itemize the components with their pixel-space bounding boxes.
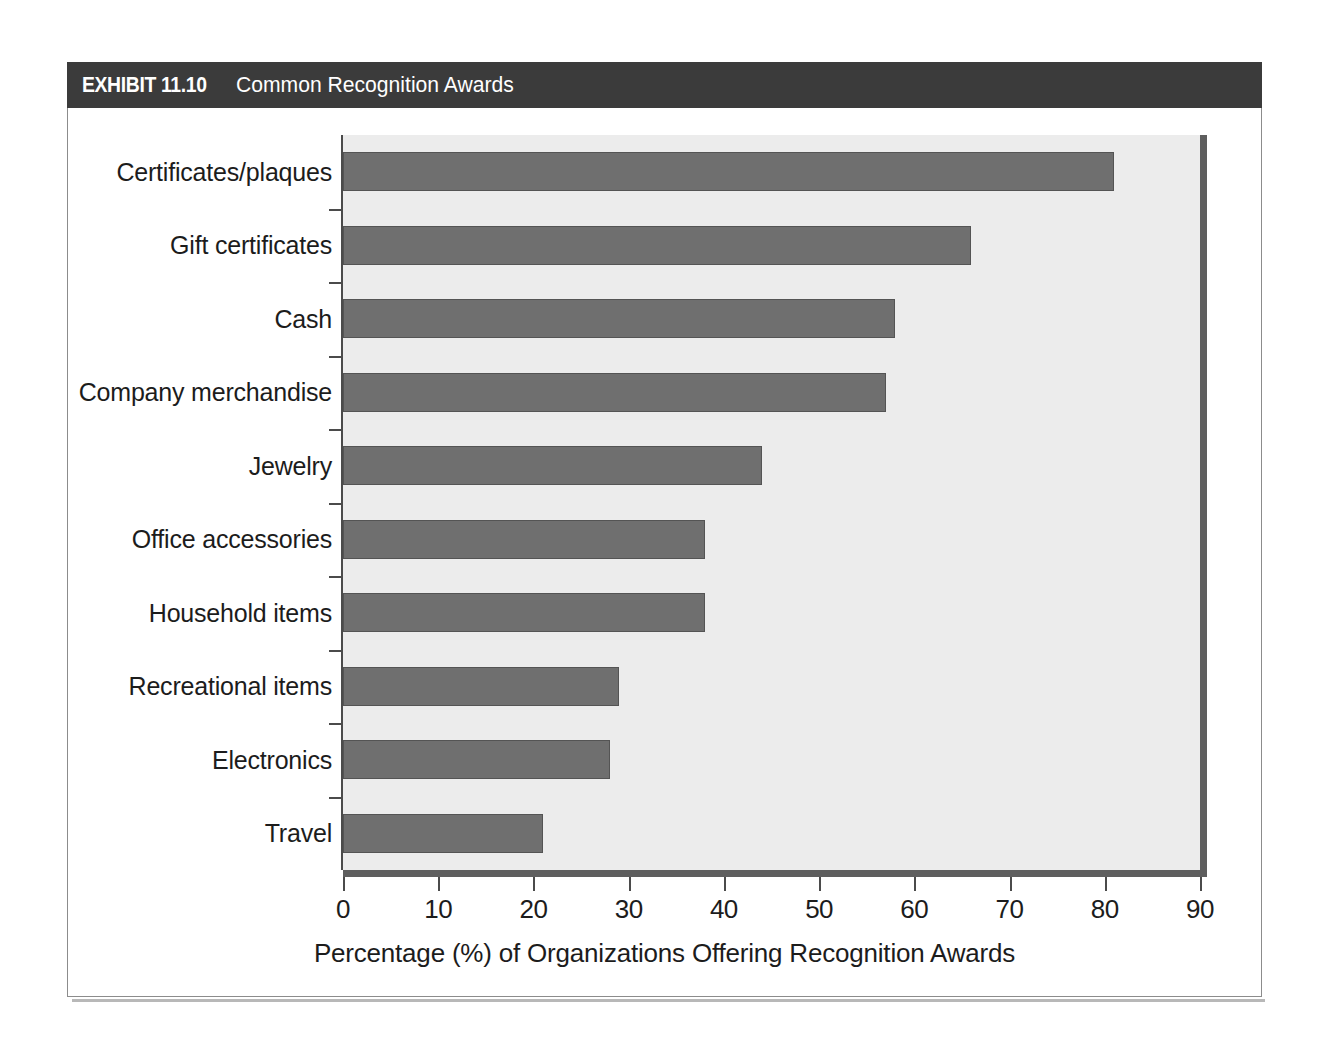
exhibit-title: Common Recognition Awards bbox=[236, 72, 514, 98]
x-axis-tick-label: 50 bbox=[805, 894, 833, 925]
x-axis-tick-label: 40 bbox=[710, 894, 738, 925]
bar-chart: 0102030405060708090 Certificates/plaques… bbox=[67, 108, 1262, 997]
plot-right-border bbox=[1200, 135, 1207, 875]
x-axis-tick bbox=[438, 877, 440, 891]
y-axis-tick bbox=[329, 282, 343, 284]
exhibit-number: EXHIBIT 11.10 bbox=[82, 72, 207, 98]
x-axis-tick-label: 20 bbox=[519, 894, 547, 925]
x-axis-tick bbox=[1200, 877, 1202, 891]
x-axis-tick bbox=[1105, 877, 1107, 891]
category-label: Office accessories bbox=[132, 525, 332, 554]
bar bbox=[343, 593, 705, 632]
category-label: Electronics bbox=[212, 745, 332, 774]
category-label: Gift certificates bbox=[170, 231, 332, 260]
y-axis-tick bbox=[329, 723, 343, 725]
category-label: Company merchandise bbox=[79, 378, 332, 407]
x-axis-tick-label: 90 bbox=[1186, 894, 1214, 925]
bar bbox=[343, 446, 762, 485]
x-axis-tick bbox=[343, 877, 345, 891]
bar bbox=[343, 814, 543, 853]
x-axis-tick bbox=[724, 877, 726, 891]
bar bbox=[343, 667, 619, 706]
category-label: Certificates/plaques bbox=[116, 157, 332, 186]
bar bbox=[343, 740, 610, 779]
x-axis-tick bbox=[819, 877, 821, 891]
category-label: Recreational items bbox=[129, 672, 332, 701]
x-axis-tick bbox=[533, 877, 535, 891]
y-axis-tick bbox=[329, 429, 343, 431]
bar bbox=[343, 299, 895, 338]
x-axis-tick-label: 30 bbox=[615, 894, 643, 925]
category-label: Travel bbox=[265, 819, 332, 848]
bar bbox=[343, 373, 886, 412]
x-axis-tick-label: 60 bbox=[900, 894, 928, 925]
exhibit-frame-shadow bbox=[72, 999, 1265, 1002]
y-axis-tick bbox=[329, 797, 343, 799]
x-axis-tick bbox=[1010, 877, 1012, 891]
x-axis-line bbox=[343, 870, 1207, 877]
x-axis-tick bbox=[914, 877, 916, 891]
y-axis-tick bbox=[329, 209, 343, 211]
y-axis-tick bbox=[329, 356, 343, 358]
category-label: Cash bbox=[274, 304, 332, 333]
y-axis-tick bbox=[329, 650, 343, 652]
category-label: Jewelry bbox=[249, 451, 332, 480]
bar bbox=[343, 520, 705, 559]
category-label: Household items bbox=[149, 598, 332, 627]
bar bbox=[343, 226, 971, 265]
x-axis-tick-label: 0 bbox=[336, 894, 350, 925]
exhibit-header: EXHIBIT 11.10 Common Recognition Awards bbox=[67, 62, 1262, 108]
x-axis-tick-label: 80 bbox=[1091, 894, 1119, 925]
y-axis-tick bbox=[329, 503, 343, 505]
x-axis-tick-label: 10 bbox=[424, 894, 452, 925]
y-axis-tick bbox=[329, 576, 343, 578]
x-axis-tick-label: 70 bbox=[996, 894, 1024, 925]
bar bbox=[343, 152, 1114, 191]
x-axis-tick bbox=[629, 877, 631, 891]
x-axis-title: Percentage (%) of Organizations Offering… bbox=[67, 938, 1262, 969]
